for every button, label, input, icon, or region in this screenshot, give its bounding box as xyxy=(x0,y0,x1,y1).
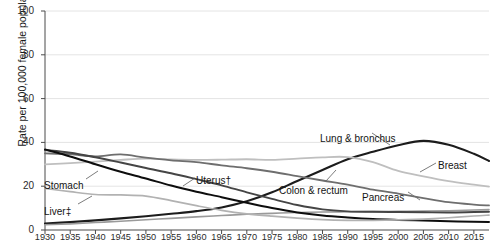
cancer-mortality-line-chart: Rate per 100,000 female population 02040… xyxy=(0,0,497,248)
stomach-leader xyxy=(86,171,98,179)
data-series-lines xyxy=(45,141,489,225)
series-label-liver: Liver‡ xyxy=(44,206,71,217)
series-label-uterus: Uterus† xyxy=(196,175,231,186)
x-axis-tick-marks xyxy=(45,230,474,234)
series-label-stomach: Stomach xyxy=(44,180,83,191)
series-label-lung-bronchus: Lung & bronchus xyxy=(320,133,396,144)
series-label-pancreas: Pancreas xyxy=(362,192,404,203)
plot-area xyxy=(0,0,497,248)
liver-leader xyxy=(78,196,92,204)
colon-leader xyxy=(326,170,336,181)
series-label-breast: Breast xyxy=(438,160,467,171)
series-label-colon-rectum: Colon & rectum xyxy=(279,185,348,196)
breast-leader xyxy=(420,163,436,172)
series-line-liver xyxy=(45,188,489,220)
